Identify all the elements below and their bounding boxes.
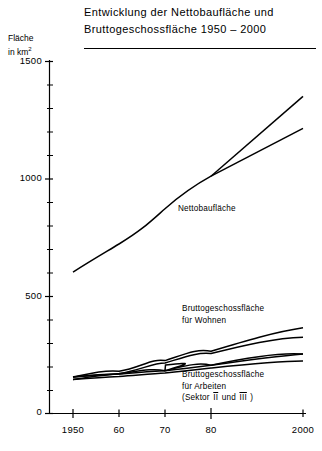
y-tick-label-1000: 1000 [0,172,42,183]
series-label-arbeiten-line-2: für Arbeiten [182,381,264,393]
series-label-arbeiten: Bruttogeschossfläche für Arbeiten (Sekto… [182,369,264,404]
series-label-wohnen-line-1: Bruttogeschossfläche [182,303,264,315]
x-tick-label-2000: 2000 [283,424,322,435]
series-label-arbeiten-line-3: (Sektor II und III ) [182,392,264,404]
x-tick-label-1950: 1950 [53,424,93,435]
y-tick-label-500: 500 [0,290,42,301]
series-label-arbeiten-line-1: Bruttogeschossfläche [182,369,264,381]
y-tick-label-1500: 1500 [0,55,42,66]
x-tick-label-60: 60 [104,424,134,435]
x-tick-label-80: 80 [196,424,226,435]
series-label-wohnen-line-2: für Wohnen [182,315,264,327]
series-nettobauflaeche [73,176,211,272]
roman-numeral-three: III [238,393,247,402]
series-label-wohnen: Bruttogeschossfläche für Wohnen [182,303,264,326]
y-tick-label-0: 0 [0,406,42,417]
series-label-nettobauflaeche: Nettobaufläche [178,203,236,215]
chart-plot-area [0,0,322,451]
x-tick-label-70: 70 [150,424,180,435]
